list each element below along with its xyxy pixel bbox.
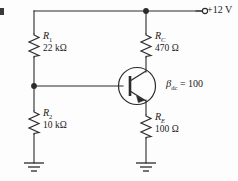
page-edge-artifact	[0, 8, 4, 15]
label-re-name: RE	[155, 112, 179, 124]
junction-dot-base-node	[31, 83, 37, 89]
beta-value: 100	[188, 78, 203, 89]
label-rc-name: RC	[155, 31, 179, 43]
label-r1-value: 22 kΩ	[43, 43, 67, 53]
transistor-collector-lead	[130, 71, 146, 81]
beta-subscript: dc	[171, 84, 177, 91]
label-re: RE 100 Ω	[155, 112, 179, 134]
resistor-re-symbol	[141, 114, 151, 139]
label-rc: RC 470 Ω	[155, 31, 179, 53]
resistor-r1-symbol	[29, 33, 39, 58]
label-r2: R2 10 kΩ	[43, 108, 67, 130]
label-r2-value: 10 kΩ	[43, 120, 67, 130]
label-re-value: 100 Ω	[155, 124, 179, 134]
resistor-r2-symbol	[29, 110, 39, 135]
ground-symbol-left	[24, 163, 44, 171]
label-r1: R1 22 kΩ	[43, 31, 67, 53]
npn-transistor-symbol	[119, 68, 156, 105]
ground-symbol-right	[136, 163, 156, 171]
label-supply-voltage: +12 V	[207, 5, 232, 16]
junction-dot-top-rail	[143, 8, 149, 14]
beta-equals: =	[180, 78, 186, 89]
label-r2-name: R2	[43, 108, 67, 120]
circuit-diagram-figure: R1 22 kΩ R2 10 kΩ RC 470 Ω RE 100 Ω βdc …	[0, 0, 238, 181]
transistor-envelope-circle	[119, 68, 156, 105]
label-r1-name: R1	[43, 31, 67, 43]
resistor-rc-symbol	[141, 33, 151, 58]
label-rc-value: 470 Ω	[155, 43, 179, 53]
label-beta-dc: βdc = 100	[166, 78, 203, 91]
